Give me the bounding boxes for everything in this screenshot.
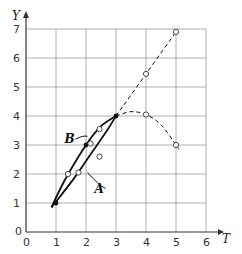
- y-tick-label: 4: [13, 110, 20, 123]
- filled-marker: [114, 114, 119, 119]
- y-tick-label: 0: [15, 225, 22, 238]
- y-axis-arrow-icon: [23, 11, 29, 18]
- series-curved-extension-line: [116, 112, 179, 150]
- open-marker: [143, 112, 148, 117]
- y-axis-label: Y: [12, 9, 21, 23]
- open-marker: [173, 29, 178, 34]
- chart: 012345612345670 BA T Y: [0, 0, 242, 254]
- open-marker: [97, 126, 102, 131]
- annotation-label-b: B: [64, 132, 75, 146]
- open-marker: [76, 170, 81, 175]
- x-tick-label: 0: [23, 236, 30, 249]
- y-tick-label: 1: [13, 197, 20, 210]
- open-marker: [97, 154, 102, 159]
- open-marker: [143, 71, 148, 76]
- x-axis-label: T: [222, 232, 231, 246]
- x-tick-label: 2: [83, 236, 90, 249]
- series-a-line: [52, 116, 117, 207]
- x-tick-label: 5: [173, 236, 180, 249]
- x-tick-label: 4: [143, 236, 150, 249]
- open-marker: [173, 142, 178, 147]
- y-tick-label: 7: [13, 23, 20, 36]
- grid: [26, 29, 206, 232]
- y-tick-label: 5: [13, 81, 20, 94]
- x-tick-label: 3: [113, 236, 120, 249]
- y-tick-label: 2: [13, 168, 20, 181]
- y-tick-label: 3: [13, 139, 20, 152]
- open-marker: [88, 141, 93, 146]
- x-tick-label: 6: [203, 236, 210, 249]
- y-tick-label: 6: [13, 52, 20, 65]
- filled-marker: [54, 201, 59, 206]
- x-tick-label: 1: [53, 236, 60, 249]
- open-marker: [65, 171, 70, 176]
- axes: 012345612345670: [13, 11, 224, 249]
